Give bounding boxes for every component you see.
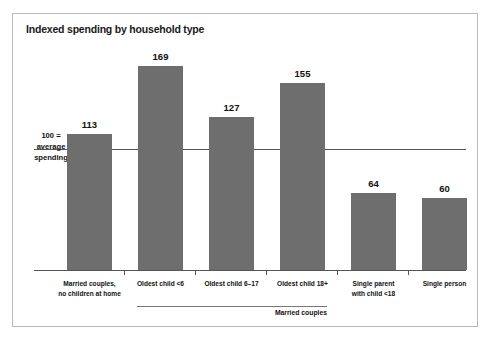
category-label-line: Oldest child <6 [123, 279, 198, 289]
category-label-line: Single person [409, 279, 480, 289]
bar-value-label: 127 [209, 102, 254, 113]
bar-value-label: 64 [351, 178, 396, 189]
bar-value-label: 155 [280, 68, 325, 79]
plot-area: 100 = average spending 113 169 127 155 6… [13, 14, 477, 326]
group-bracket-label: Married couples [137, 309, 327, 316]
category-label-oldest-child-6-17: Oldest child 6–17 [194, 279, 269, 289]
bar-oldest-child-18-plus [280, 83, 325, 270]
bar-oldest-child-6-17 [209, 117, 254, 270]
bar-single-parent-with-child-under-18 [351, 193, 396, 270]
category-label-single-person: Single person [409, 279, 480, 289]
axis-tick [337, 270, 338, 275]
category-label-line: with child <18 [338, 289, 409, 299]
category-label-line: Married couples, [47, 279, 132, 289]
category-label-line: no children at home [47, 289, 132, 299]
chart-figure: Indexed spending by household type 100 =… [12, 13, 478, 327]
category-label-line: Oldest child 18+ [265, 279, 340, 289]
bar-value-label: 60 [422, 183, 467, 194]
bar-oldest-child-under-6 [138, 66, 183, 270]
category-label-oldest-child-under-6: Oldest child <6 [123, 279, 198, 289]
group-bracket-rule [137, 306, 327, 307]
bar-value-label: 113 [67, 119, 112, 130]
category-label-line: Single parent [338, 279, 409, 289]
category-label-single-parent-with-child-under-18: Single parent with child <18 [338, 279, 409, 298]
axis-tick [408, 270, 409, 275]
axis-tick [266, 270, 267, 275]
bar-single-person [422, 198, 467, 270]
bar-married-couples-no-children [67, 134, 112, 270]
category-label-oldest-child-18-plus: Oldest child 18+ [265, 279, 340, 289]
category-label-married-couples-no-children: Married couples, no children at home [47, 279, 132, 298]
category-label-line: Oldest child 6–17 [194, 279, 269, 289]
axis-tick [195, 270, 196, 275]
axis-tick [124, 270, 125, 275]
x-axis-line [34, 270, 466, 271]
bar-value-label: 169 [138, 51, 183, 62]
